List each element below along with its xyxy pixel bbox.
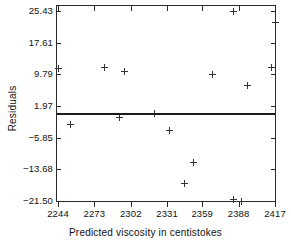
x-tick-mark: [239, 202, 240, 207]
y-axis-title: Residuals: [7, 59, 18, 159]
x-tick-mark-top: [167, 6, 168, 11]
x-tick-mark-top: [275, 6, 276, 11]
y-tick-mark-right: [271, 74, 276, 75]
x-tick-mark: [167, 202, 168, 207]
y-tick-label: 9.79: [34, 69, 53, 79]
y-tick-mark-right: [271, 138, 276, 139]
y-tick-mark-right: [271, 43, 276, 44]
x-tick-mark-top: [202, 6, 203, 11]
x-tick-label: 2417: [264, 209, 286, 219]
y-tick-label: −13.68: [23, 164, 53, 174]
y-tick-label: 17.61: [29, 38, 53, 48]
x-tick-mark: [202, 202, 203, 207]
y-tick-mark-right: [271, 169, 276, 170]
y-tick-label: 1.97: [34, 101, 53, 111]
y-tick-mark: [56, 74, 61, 75]
y-tick-label: −21.50: [23, 196, 53, 206]
residual-plot-figure: 25.4317.619.791.97−5.85−13.68−21.50 Pred…: [0, 0, 291, 244]
x-tick-mark: [275, 202, 276, 207]
plot-area: [56, 5, 276, 202]
x-tick-label: 2388: [228, 209, 250, 219]
x-tick-mark-top: [58, 6, 59, 11]
x-tick-mark-top: [131, 6, 132, 11]
y-tick-mark: [56, 138, 61, 139]
x-tick-mark-top: [239, 6, 240, 11]
y-tick-label: −5.85: [28, 133, 53, 143]
x-tick-label: 2302: [120, 209, 142, 219]
y-tick-mark: [56, 43, 61, 44]
x-tick-label: 2244: [47, 209, 69, 219]
y-tick-mark-right: [271, 11, 276, 12]
x-tick-mark: [58, 202, 59, 207]
y-tick-label: 25.43: [29, 6, 53, 16]
y-tick-mark: [56, 11, 61, 12]
x-tick-label: 2273: [84, 209, 106, 219]
x-tick-label: 2331: [156, 209, 178, 219]
y-tick-mark-right: [271, 106, 276, 107]
x-tick-mark: [94, 202, 95, 207]
x-tick-mark-top: [94, 6, 95, 11]
reference-line: [57, 113, 275, 115]
x-tick-mark: [131, 202, 132, 207]
y-tick-mark: [56, 169, 61, 170]
x-axis-title: Predicted viscosity in centistokes: [0, 227, 291, 238]
y-tick-mark: [56, 106, 61, 107]
x-tick-label: 2359: [191, 209, 213, 219]
